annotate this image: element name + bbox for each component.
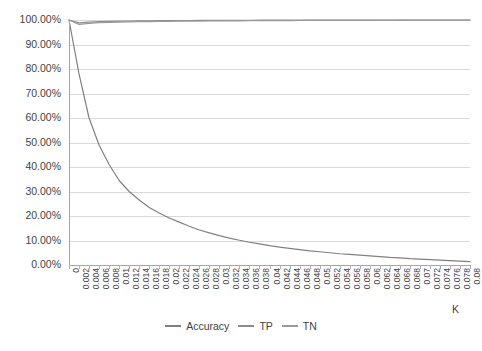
- x-axis-tickmark: [69, 265, 70, 269]
- y-axis-tick-label: 90.00%: [25, 39, 61, 50]
- x-axis-tickmark: [270, 265, 271, 269]
- series-line-accuracy: [69, 20, 470, 262]
- x-axis-tick-label: 0.026: [202, 268, 211, 289]
- x-axis-tick-label: 0.058: [363, 268, 372, 289]
- x-axis-tick-label: 0.062: [383, 268, 392, 289]
- x-axis-tickmark: [390, 265, 391, 269]
- x-axis-tick-label: 0.04: [273, 268, 282, 285]
- x-axis-tickmark: [370, 265, 371, 269]
- x-axis-tick-label: 0.07: [423, 268, 432, 285]
- x-axis-tickmark: [420, 265, 421, 269]
- x-axis-tickmark: [189, 265, 190, 269]
- x-axis-tick-label: 0.038: [262, 268, 271, 289]
- y-axis-tick-label: 80.00%: [25, 63, 61, 74]
- x-axis-tick-label: 0.004: [92, 268, 101, 289]
- series-container: [69, 20, 470, 265]
- x-axis-tickmark: [290, 265, 291, 269]
- x-axis-tickmark: [330, 265, 331, 269]
- x-axis-tick-label: 0.076: [453, 268, 462, 289]
- legend-label: TN: [303, 320, 317, 332]
- x-axis-tickmark: [249, 265, 250, 269]
- y-axis-tick-label: 60.00%: [25, 112, 61, 123]
- x-axis-tick-label: 0.068: [413, 268, 422, 289]
- x-axis-tickmark: [99, 265, 100, 269]
- y-axis-line: [69, 20, 70, 266]
- x-axis-tick-label: 0.024: [192, 268, 201, 289]
- x-axis-tickmark: [159, 265, 160, 269]
- x-axis-tick-label: 0.002: [82, 268, 91, 289]
- x-axis-tick-label: 0.05: [323, 268, 332, 285]
- legend-item-tp[interactable]: TP: [238, 320, 272, 332]
- x-axis-tick-label: 0.028: [212, 268, 221, 289]
- x-axis-tickmark: [179, 265, 180, 269]
- y-axis-tick-label: 10.00%: [25, 235, 61, 246]
- x-axis-tick-label: 0.006: [102, 268, 111, 289]
- x-axis-tick-label: 0.022: [182, 268, 191, 289]
- x-axis-tick-label: 0.042: [283, 268, 292, 289]
- x-axis-tickmark: [350, 265, 351, 269]
- x-axis-tickmark: [460, 265, 461, 269]
- x-axis-tickmark: [219, 265, 220, 269]
- x-axis-tick-label: 0.048: [313, 268, 322, 289]
- plot-area: [69, 20, 470, 265]
- x-axis-tick-label: 0.01: [122, 268, 131, 285]
- x-axis-tickmark: [139, 265, 140, 269]
- x-axis-tickmark: [470, 265, 471, 269]
- y-axis-tick-label: 30.00%: [25, 186, 61, 197]
- x-axis-tickmark: [209, 265, 210, 269]
- x-axis-tick-label: 0.066: [403, 268, 412, 289]
- legend-item-accuracy[interactable]: Accuracy: [165, 320, 229, 332]
- y-axis-tick-label: 0.00%: [31, 259, 61, 270]
- x-axis-tickmark: [340, 265, 341, 269]
- x-axis-tickmark: [149, 265, 150, 269]
- x-axis-tickmark: [450, 265, 451, 269]
- legend-swatch-icon: [165, 325, 181, 327]
- legend-item-tn[interactable]: TN: [282, 320, 317, 332]
- x-axis-labels: 00.0020.0040.0060.0080.010.0120.0140.016…: [69, 268, 470, 313]
- x-axis-tickmark: [400, 265, 401, 269]
- y-axis-tick-label: 100.00%: [20, 14, 61, 25]
- x-axis-tick-label: 0.008: [112, 268, 121, 289]
- y-axis-labels: 100.00%90.00%80.00%70.00%60.00%50.00%40.…: [0, 0, 66, 351]
- x-axis-tickmark: [380, 265, 381, 269]
- x-axis-tick-label: 0.012: [132, 268, 141, 289]
- x-axis-tick-label: 0.064: [393, 268, 402, 289]
- x-axis-tickmark: [259, 265, 260, 269]
- chart-legend: AccuracyTPTN: [0, 320, 482, 332]
- x-axis-tickmark: [169, 265, 170, 269]
- legend-swatch-icon: [282, 325, 298, 327]
- x-axis-tickmark: [229, 265, 230, 269]
- x-axis-tick-label: 0.078: [463, 268, 472, 289]
- y-axis-tick-label: 20.00%: [25, 210, 61, 221]
- x-axis-tickmark: [79, 265, 80, 269]
- x-axis-tickmark: [129, 265, 130, 269]
- x-axis-tick-label: 0.02: [172, 268, 181, 285]
- x-axis-tickmark: [360, 265, 361, 269]
- x-axis-tickmark: [320, 265, 321, 269]
- x-axis-tickmark: [109, 265, 110, 269]
- x-axis-tickmark: [280, 265, 281, 269]
- x-axis-tickmark: [89, 265, 90, 269]
- x-axis-tick-label: 0.052: [333, 268, 342, 289]
- x-axis-tickmark: [430, 265, 431, 269]
- x-axis-tick-label: 0.016: [152, 268, 161, 289]
- x-axis-tick-label: 0.056: [353, 268, 362, 289]
- legend-swatch-icon: [238, 325, 254, 327]
- y-axis-tick-label: 50.00%: [25, 137, 61, 148]
- x-axis-tickmark: [410, 265, 411, 269]
- x-axis-tickmark: [199, 265, 200, 269]
- y-axis-tick-label: 40.00%: [25, 161, 61, 172]
- x-axis-tick-label: 0.054: [343, 268, 352, 289]
- x-axis-title: K: [452, 303, 459, 315]
- legend-label: TP: [259, 320, 272, 332]
- x-axis-tick-label: 0.018: [162, 268, 171, 289]
- x-axis-tickmark: [239, 265, 240, 269]
- x-axis-tick-label: 0.06: [373, 268, 382, 285]
- x-axis-tick-label: 0.072: [433, 268, 442, 289]
- x-axis-tick-label: 0.046: [303, 268, 312, 289]
- x-axis-tickmark: [310, 265, 311, 269]
- line-chart: 100.00%90.00%80.00%70.00%60.00%50.00%40.…: [0, 0, 482, 351]
- x-axis-tick-label: 0.08: [473, 268, 482, 285]
- x-axis-tickmark: [119, 265, 120, 269]
- x-axis-tickmark: [300, 265, 301, 269]
